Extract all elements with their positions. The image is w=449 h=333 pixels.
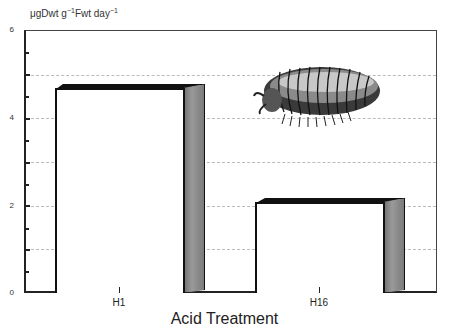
ytick-minor: [26, 52, 29, 54]
ytick-1: [26, 249, 30, 251]
bar-h1-side-face: [183, 84, 205, 293]
bar-h1: [55, 88, 185, 293]
ytick-4: [26, 118, 30, 120]
xtick-label-h16: H16: [299, 297, 339, 308]
ytick-label-2: 2: [2, 201, 14, 210]
ytick-label-0: 0: [2, 288, 14, 297]
x-axis-label: Acid Treatment: [0, 310, 449, 328]
ytick-minor: [26, 140, 29, 142]
ytick-5: [26, 74, 30, 76]
ytick-minor: [26, 271, 29, 273]
ytick-minor: [26, 184, 29, 186]
ytick-label-6: 6: [2, 25, 14, 34]
bar-h16-side-face: [383, 198, 405, 293]
y-axis-label: μgDwt g−1Fwt day−1: [30, 7, 118, 19]
isopod-illustration-icon: [250, 64, 385, 129]
ytick-minor: [26, 96, 29, 98]
ytick-2: [26, 205, 30, 207]
xtick-h16: [319, 287, 320, 293]
ytick-minor: [26, 228, 29, 230]
xtick-h1: [119, 287, 120, 293]
xtick-label-h1: H1: [99, 297, 139, 308]
bar-h16: [255, 202, 385, 293]
ytick-3: [26, 162, 30, 164]
ytick-label-4: 4: [2, 113, 14, 122]
